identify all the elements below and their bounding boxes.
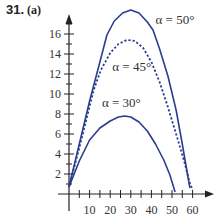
y-tick-label: 16	[49, 27, 61, 41]
curve-label: α = 50°	[156, 12, 195, 27]
projectile-chart: 102030405060246810121416 α = 50°α = 45°α…	[0, 0, 218, 217]
y-tick-label: 14	[49, 47, 61, 61]
y-tick-label: 4	[55, 147, 61, 161]
x-tick-label: 60	[187, 203, 199, 217]
y-tick-label: 6	[55, 127, 61, 141]
y-axis-arrow-icon	[66, 14, 73, 24]
curve-label: α = 45°	[112, 59, 151, 74]
y-tick-label: 12	[49, 67, 61, 81]
x-tick-label: 20	[104, 203, 116, 217]
x-tick-label: 40	[145, 203, 157, 217]
curve-30-deg	[69, 116, 175, 192]
curve-label: α = 30°	[102, 95, 141, 110]
y-tick-label: 10	[49, 87, 61, 101]
x-axis-arrow-icon	[205, 191, 214, 198]
curve-labels: α = 50°α = 45°α = 30°	[102, 12, 194, 110]
x-tick-label: 30	[125, 203, 137, 217]
x-tick-label: 50	[166, 203, 178, 217]
y-tick-label: 2	[55, 167, 61, 181]
y-tick-label: 8	[55, 107, 61, 121]
x-tick-label: 10	[84, 203, 96, 217]
